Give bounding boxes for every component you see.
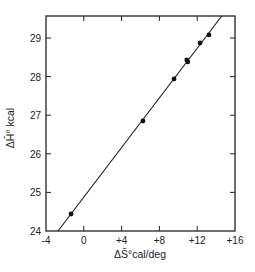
fit-line bbox=[58, 16, 222, 231]
y-tick-label: 26 bbox=[30, 149, 42, 160]
x-tick-label: +4 bbox=[116, 235, 128, 246]
plot-series bbox=[58, 16, 222, 231]
y-axis: 242526272829 bbox=[30, 33, 235, 237]
data-point bbox=[185, 60, 190, 65]
x-axis: -40+4+8+12+16 bbox=[42, 16, 244, 246]
y-tick-label: 24 bbox=[30, 226, 42, 237]
x-tick-label: +12 bbox=[189, 235, 206, 246]
y-tick-label: 29 bbox=[30, 33, 42, 44]
x-tick-label: -4 bbox=[42, 235, 51, 246]
data-point bbox=[172, 77, 177, 82]
y-tick-label: 27 bbox=[30, 110, 42, 121]
data-point bbox=[141, 119, 146, 124]
x-tick-label: +16 bbox=[227, 235, 244, 246]
x-tick-label: +8 bbox=[154, 235, 166, 246]
y-tick-label: 28 bbox=[30, 72, 42, 83]
data-point bbox=[198, 41, 203, 46]
data-point bbox=[69, 212, 74, 217]
y-tick-label: 25 bbox=[30, 187, 42, 198]
chart: -40+4+8+12+16 242526272829 ΔS̄°cal/deg Δ… bbox=[0, 0, 255, 272]
x-axis-title: ΔS̄°cal/deg bbox=[114, 248, 166, 260]
data-point bbox=[207, 33, 212, 38]
y-axis-title: ΔH̄° kcal bbox=[4, 108, 16, 148]
x-tick-label: 0 bbox=[81, 235, 87, 246]
